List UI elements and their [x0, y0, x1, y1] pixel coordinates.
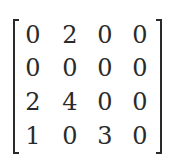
matrix-cell-3-3: 0 — [128, 124, 152, 148]
matrix-cell-1-2: 0 — [93, 56, 117, 80]
left-bracket — [13, 19, 19, 154]
matrix-cell-3-0: 1 — [21, 124, 45, 148]
matrix-cell-0-2: 0 — [93, 23, 117, 47]
matrix-cell-2-1: 4 — [58, 90, 82, 114]
matrix-cell-2-3: 0 — [128, 90, 152, 114]
matrix-cell-1-0: 0 — [21, 56, 45, 80]
matrix-cell-3-2: 3 — [93, 124, 117, 148]
matrix-cell-0-0: 0 — [21, 23, 45, 47]
matrix-cell-2-2: 0 — [93, 90, 117, 114]
matrix-cell-0-1: 2 — [58, 23, 82, 47]
matrix-cell-2-0: 2 — [21, 90, 45, 114]
matrix-cell-1-3: 0 — [128, 56, 152, 80]
matrix-cell-3-1: 0 — [58, 124, 82, 148]
matrix-cell-0-3: 0 — [128, 23, 152, 47]
right-bracket — [156, 19, 162, 154]
matrix: 0 2 0 0 0 0 0 0 2 4 0 0 1 0 3 0 — [13, 19, 162, 154]
matrix-cell-1-1: 0 — [58, 56, 82, 80]
